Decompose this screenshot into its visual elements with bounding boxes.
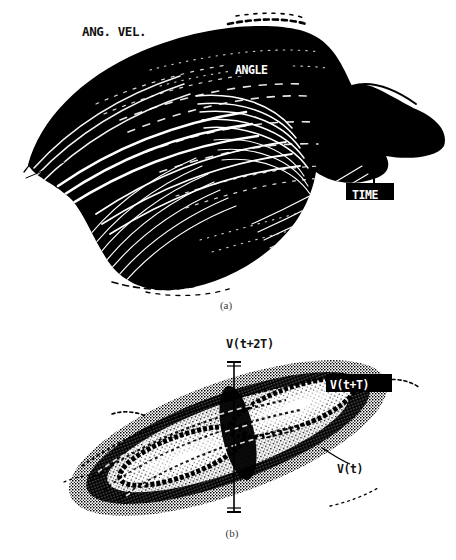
figure-b-caption: (b) <box>202 527 262 539</box>
attractor-body <box>0 0 456 300</box>
page-bottom-edge-artifact <box>250 548 450 560</box>
figure-a-plot <box>0 0 456 300</box>
figure-b-plot <box>0 330 456 545</box>
axis-label-v-t: V(t) <box>337 462 363 476</box>
axis-label-v-t-plus-2T: V(t+2T) <box>226 337 274 351</box>
axis-label-angle: ANGLE <box>235 63 268 77</box>
figure-page: ANG. VEL. ANGLE TIME (a) <box>0 0 456 560</box>
axis-label-ang-vel: ANG. VEL. <box>82 24 146 39</box>
figure-b <box>0 330 456 545</box>
figure-a <box>0 0 456 300</box>
axis-label-v-t-plus-T: V(t+T) <box>330 378 369 392</box>
figure-a-caption: (a) <box>196 299 256 311</box>
axis-label-time: TIME <box>352 188 378 202</box>
